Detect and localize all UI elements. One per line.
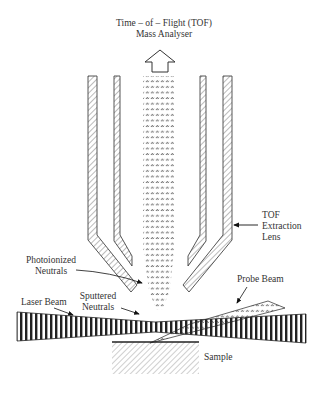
lens-label: TOF Extraction Lens [262, 210, 302, 242]
probe-pointer-arrow [237, 287, 247, 303]
lens-label-line2: Extraction [262, 221, 302, 231]
up-arrow-icon [145, 50, 175, 72]
photoionized-label: Photoionized Neutrals [26, 255, 76, 276]
laser-beam-label: Laser Beam [21, 297, 67, 307]
lens-label-line3: Lens [262, 232, 281, 242]
sputtered-label: Sputtered Neutrals [80, 291, 117, 312]
laser-pointer-arrow [54, 308, 73, 315]
sample-block [112, 342, 199, 374]
ion-column [143, 76, 174, 310]
sample-label: Sample [204, 352, 233, 362]
analyser-title-line1: Time – of – Flight (TOF) [116, 18, 212, 29]
sputtered-label-line1: Sputtered [80, 291, 117, 301]
lens-label-line1: TOF [262, 210, 280, 220]
sputtered-label-line2: Neutrals [82, 302, 114, 312]
analyser-title-line2: Mass Analyser [136, 29, 193, 39]
photoionized-label-line2: Neutrals [35, 266, 67, 276]
probe-beam-label: Probe Beam [237, 274, 284, 284]
lens-electrode-inner-left [114, 76, 132, 266]
analyser-title: Time – of – Flight (TOF) Mass Analyser [116, 18, 212, 39]
diagram: Time – of – Flight (TOF) Mass Analyser T… [0, 0, 324, 395]
lens-electrode-inner-right [188, 76, 206, 266]
photoionized-label-line1: Photoionized [26, 255, 76, 265]
sputtered-pointer-arrow [121, 308, 139, 314]
